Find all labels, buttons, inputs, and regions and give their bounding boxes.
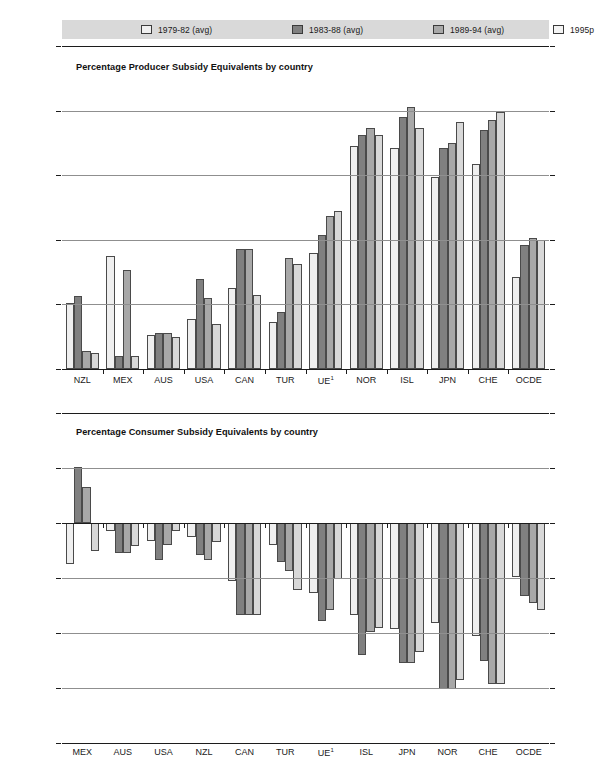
gridline-40	[62, 413, 549, 414]
bar-ISL-3	[375, 523, 383, 628]
x-axis-separator	[427, 369, 428, 374]
bar-NOR-2	[448, 523, 456, 689]
y-tick-mark	[550, 633, 555, 634]
y-tick-mark	[56, 175, 61, 176]
x-axis-separator	[224, 369, 225, 374]
producer-plot-area: 002020404060608080100100	[62, 46, 549, 369]
bar-ISL-1	[399, 117, 407, 369]
x-axis-separator	[184, 523, 185, 528]
y-tick-mark	[56, 240, 61, 241]
bar-JPN-1	[399, 523, 407, 663]
x-axis-separator	[143, 523, 144, 528]
x-label-CAN: CAN	[224, 747, 265, 757]
legend-swatch-icon	[292, 25, 303, 34]
bar-JPN-1	[439, 148, 447, 369]
gridline--40	[62, 633, 549, 634]
bar-USA-1	[155, 523, 163, 560]
bar-CAN-2	[245, 249, 253, 369]
bar-AUS-0	[147, 335, 155, 369]
y-tick-mark	[56, 743, 61, 744]
bar-ISL-3	[415, 128, 423, 369]
x-label-ISL: ISL	[346, 747, 387, 757]
bar-OCDE-0	[512, 523, 520, 577]
bar-TUR-0	[269, 322, 277, 369]
legend-item-3: 1995p	[553, 20, 594, 39]
bar-TUR-3	[293, 523, 301, 590]
y-tick-mark	[56, 111, 61, 112]
bar-TUR-1	[277, 523, 285, 562]
bar-OCDE-1	[520, 523, 528, 596]
legend-label: 1979-82 (avg)	[158, 25, 212, 35]
chart-legend: 1979-82 (avg)1983-88 (avg)1989-94 (avg)1…	[62, 20, 549, 39]
bar-UE-2	[326, 216, 334, 369]
y-tick-mark	[550, 240, 555, 241]
y-tick-mark	[550, 304, 555, 305]
y-tick-mark	[550, 175, 555, 176]
x-label-NOR: NOR	[346, 375, 387, 385]
bar-NOR-0	[350, 146, 358, 369]
producer-bars	[62, 46, 549, 369]
y-tick-mark	[550, 523, 555, 524]
bar-USA-2	[204, 298, 212, 369]
x-axis-separator	[468, 523, 469, 528]
bar-USA-3	[212, 324, 220, 369]
bar-NZL-1	[74, 296, 82, 369]
gridline--60	[62, 688, 549, 689]
bar-NOR-3	[375, 135, 383, 369]
x-label-USA: USA	[184, 375, 225, 385]
bar-MEX-2	[82, 487, 90, 523]
bar-CHE-0	[472, 164, 480, 369]
bar-CHE-3	[496, 523, 504, 684]
x-label-TUR: TUR	[265, 747, 306, 757]
legend-label: 1983-88 (avg)	[309, 25, 363, 35]
bar-USA-2	[163, 523, 171, 545]
bar-NZL-3	[212, 523, 220, 542]
x-axis-separator	[468, 369, 469, 374]
bar-OCDE-2	[529, 523, 537, 603]
consumer-subsidy-chart: Percentage Consumer Subsidy Equivalents …	[0, 405, 604, 779]
x-axis-separator	[103, 523, 104, 528]
x-axis-separator	[224, 523, 225, 528]
x-axis-separator	[103, 369, 104, 374]
bar-OCDE-3	[537, 523, 545, 610]
x-axis-separator	[184, 369, 185, 374]
producer-subsidy-chart: Percentage Producer Subsidy Equivalents …	[0, 40, 604, 400]
legend-swatch-icon	[433, 25, 444, 34]
bar-UE-3	[334, 523, 342, 579]
gridline--20	[62, 578, 549, 579]
x-label-UE: UE1	[306, 375, 347, 386]
x-axis-separator	[508, 369, 509, 374]
bar-JPN-3	[456, 122, 464, 369]
bar-OCDE-0	[512, 277, 520, 369]
bar-CHE-2	[488, 120, 496, 369]
x-label-ISL: ISL	[387, 375, 428, 385]
bar-UE-2	[326, 523, 334, 610]
x-axis-separator	[265, 369, 266, 374]
y-tick-mark	[550, 46, 555, 47]
y-tick-mark	[56, 688, 61, 689]
gridline-60	[62, 175, 549, 176]
gridline-40	[62, 240, 549, 241]
bar-CHE-0	[472, 523, 480, 636]
bar-CHE-1	[480, 523, 488, 661]
x-axis-separator	[265, 523, 266, 528]
bar-NZL-1	[196, 523, 204, 555]
x-axis-separator	[143, 369, 144, 374]
legend-item-2: 1989-94 (avg)	[433, 20, 504, 39]
y-tick-mark	[550, 578, 555, 579]
bar-UE-3	[334, 211, 342, 369]
legend-label: 1995p	[570, 25, 594, 35]
bar-NOR-2	[366, 128, 374, 369]
bar-CHE-1	[480, 130, 488, 369]
bar-ISL-0	[350, 523, 358, 615]
bar-USA-3	[172, 523, 180, 531]
bar-CAN-1	[236, 523, 244, 615]
bar-MEX-3	[91, 523, 99, 551]
bar-MEX-0	[66, 523, 74, 564]
y-tick-mark	[550, 743, 555, 744]
y-tick-mark	[550, 688, 555, 689]
y-tick-mark	[550, 468, 555, 469]
gridline-100	[62, 46, 549, 47]
x-axis-separator	[387, 369, 388, 374]
bar-NZL-2	[82, 351, 90, 369]
